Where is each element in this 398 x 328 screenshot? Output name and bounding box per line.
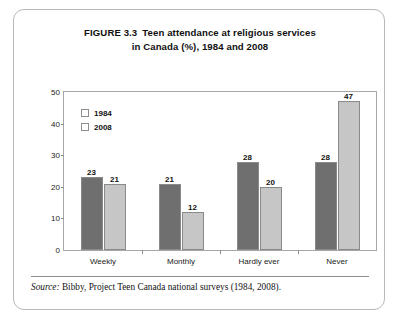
x-axis-label: Hardly ever <box>239 257 280 266</box>
figure-number: FIGURE 3.3 <box>84 27 137 38</box>
bar-group: 2847 <box>315 92 360 250</box>
bar-2008: 12 <box>182 212 204 250</box>
bar-value-label: 21 <box>110 175 119 184</box>
source-text: Bibby, Project Teen Canada national surv… <box>62 282 281 292</box>
plot-area: 01020304050 1984 2008 2321211228202847 W… <box>63 91 377 251</box>
source-note: Source: Bibby, Project Teen Canada natio… <box>31 282 281 292</box>
y-axis-tick-label: 20 <box>51 182 60 191</box>
bar-group: 2820 <box>237 92 282 250</box>
figure-title-line-1: Teen attendance at religious services <box>142 27 316 38</box>
bar-1984: 21 <box>159 184 181 250</box>
x-axis-label: Monthly <box>167 257 195 266</box>
bar-value-label: 47 <box>344 92 353 101</box>
bar-1984: 28 <box>237 162 259 250</box>
bars-layer: 2321211228202847 <box>64 92 376 250</box>
source-divider <box>31 276 369 277</box>
bar-group: 2321 <box>81 92 126 250</box>
bar-1984: 28 <box>315 162 337 250</box>
bar-2008: 47 <box>338 101 360 250</box>
bar-value-label: 20 <box>266 178 275 187</box>
figure-container: FIGURE 3.3Teen attendance at religious s… <box>13 9 385 310</box>
bar-value-label: 28 <box>321 153 330 162</box>
x-axis-tick-mark <box>298 250 299 254</box>
y-axis-tick-label: 50 <box>51 88 60 97</box>
y-axis-tick-label: 30 <box>51 151 60 160</box>
bar-value-label: 23 <box>87 168 96 177</box>
x-axis-label: Weekly <box>90 257 116 266</box>
bar-value-label: 28 <box>243 153 252 162</box>
x-axis-label: Never <box>326 257 347 266</box>
x-axis-tick-mark <box>142 250 143 254</box>
figure-title: FIGURE 3.3Teen attendance at religious s… <box>30 26 370 54</box>
bar-2008: 21 <box>104 184 126 250</box>
bar-group: 2112 <box>159 92 204 250</box>
bar-1984: 23 <box>81 177 103 250</box>
y-axis-tick-label: 0 <box>56 246 60 255</box>
bar-2008: 20 <box>260 187 282 250</box>
bar-value-label: 21 <box>165 175 174 184</box>
x-axis-tick-mark <box>220 250 221 254</box>
y-axis-tick-label: 10 <box>51 214 60 223</box>
bar-value-label: 12 <box>188 203 197 212</box>
source-label: Source: <box>31 282 60 292</box>
figure-title-line-2: in Canada (%), 1984 and 2008 <box>30 40 370 54</box>
y-axis-tick-label: 40 <box>51 119 60 128</box>
